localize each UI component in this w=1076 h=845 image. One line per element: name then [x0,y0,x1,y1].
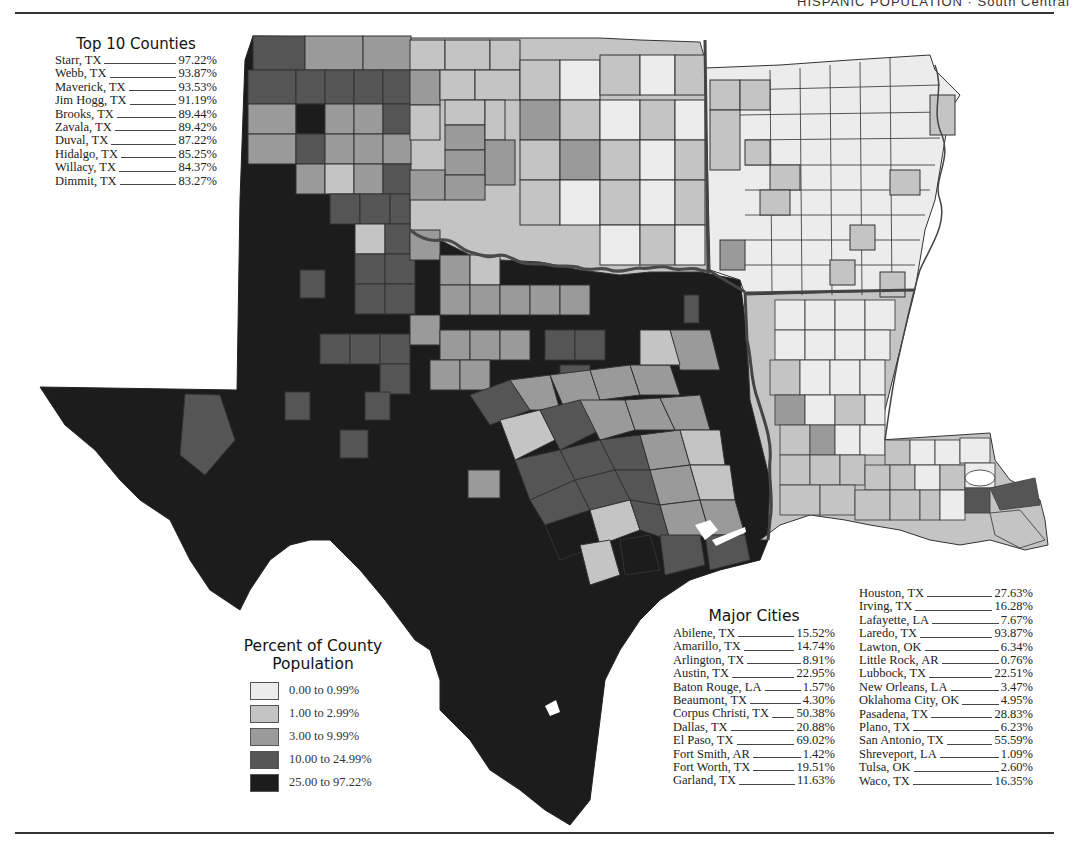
county-row: Hidalgo, TX85.25% [55,148,217,161]
county-row-name: Jim Hogg, TX [55,94,127,107]
county-row-name: Starr, TX [55,54,101,67]
legend-swatch [250,705,279,723]
city-row-name: Irving, TX [859,600,912,613]
legend-label: 10.00 to 24.99% [289,752,372,767]
city-row-value: 27.63% [994,587,1033,600]
leader-line [747,663,800,664]
city-row-value: 1.42% [803,748,835,761]
leader-line [915,610,992,611]
city-row-value: 1.09% [1001,748,1033,761]
leader-line [130,104,177,105]
leader-line [753,770,794,771]
city-row-value: 93.87% [994,627,1033,640]
county-row-value: 83.27% [178,175,217,188]
leader-line [750,703,801,704]
city-row-name: Pasadena, TX [859,708,928,721]
legend-item: 0.00 to 0.99% [250,679,388,702]
legend-swatch [250,728,279,746]
leader-line [738,636,794,637]
city-row: Lafayette, LA7.67% [859,614,1033,627]
legend-item: 25.00 to 97.22% [250,771,388,794]
leader-line [947,744,993,745]
city-row-name: Baton Rouge, LA [673,681,762,694]
city-row-name: Tulsa, OK [859,761,911,774]
county-row-name: Dimmit, TX [55,175,117,188]
city-row: San Antonio, TX55.59% [859,734,1033,747]
city-row-name: Abilene, TX [673,627,735,640]
leader-line [737,744,795,745]
legend-title-line2: Population [238,655,388,673]
legend-label: 0.00 to 0.99% [289,683,359,698]
city-row-name: Waco, TX [859,775,910,788]
city-row-value: 8.91% [803,654,835,667]
leader-line [120,184,177,185]
legend-item: 10.00 to 24.99% [250,748,388,771]
city-row-value: 55.59% [994,734,1033,747]
map-legend: Percent of County Population 0.00 to 0.9… [238,637,388,794]
city-row: Garland, TX11.63% [673,774,835,787]
city-row: El Paso, TX69.02% [673,734,835,747]
leader-line [732,677,794,678]
county-row: Jim Hogg, TX91.19% [55,94,217,107]
county-row-value: 85.25% [178,148,217,161]
leader-line [129,90,177,91]
leader-line [765,690,801,691]
leader-line [753,757,801,758]
city-row-name: Laredo, TX [859,627,917,640]
city-row-value: 3.47% [1001,681,1033,694]
city-row-name: Plano, TX [859,721,910,734]
city-row-value: 6.23% [1001,721,1033,734]
city-row-value: 16.28% [994,600,1033,613]
county-row-value: 93.87% [178,67,217,80]
city-row: Arlington, TX8.91% [673,654,835,667]
footer-rule [15,832,1054,834]
county-row-value: 87.22% [178,134,217,147]
city-row-name: Dallas, TX [673,721,728,734]
county-row: Dimmit, TX83.27% [55,175,217,188]
legend-label: 25.00 to 97.22% [289,775,372,790]
city-row: Dallas, TX20.88% [673,721,835,734]
leader-line [927,596,992,597]
city-row: Shreveport, LA1.09% [859,748,1033,761]
county-row-value: 93.53% [178,81,217,94]
leader-line [942,663,999,664]
city-row-name: Lafayette, LA [859,614,929,627]
city-row-name: Arlington, TX [673,654,744,667]
county-row: Brooks, TX89.44% [55,108,217,121]
city-row-value: 14.74% [796,640,835,653]
city-row-name: San Antonio, TX [859,734,944,747]
city-row: Fort Smith, AR1.42% [673,748,835,761]
leader-line [929,677,992,678]
leader-line [925,650,999,651]
city-row-value: 2.60% [1001,761,1033,774]
leader-line [117,117,177,118]
city-row-value: 15.52% [796,627,835,640]
county-row: Maverick, TX93.53% [55,81,217,94]
county-row-name: Brooks, TX [55,108,114,121]
city-row: Corpus Christi, TX50.38% [673,707,835,720]
city-row: Beaumont, TX4.30% [673,694,835,707]
city-row: Little Rock, AR0.76% [859,654,1033,667]
city-row-name: Shreveport, LA [859,748,937,761]
city-row-name: Lubbock, TX [859,667,926,680]
leader-line [962,704,998,705]
city-row: Houston, TX27.63% [859,587,1033,600]
city-row-name: Oklahoma City, OK [859,694,959,707]
county-row-value: 84.37% [178,161,217,174]
leader-line [772,717,794,718]
legend-label: 1.00 to 2.99% [289,706,359,721]
city-row: Austin, TX22.95% [673,667,835,680]
city-row-name: New Orleans, LA [859,681,948,694]
city-row-value: 28.83% [994,708,1033,721]
leader-line [913,784,993,785]
leader-line [940,757,999,758]
city-row: Laredo, TX93.87% [859,627,1033,640]
city-row: Waco, TX16.35% [859,775,1033,788]
legend-swatch [250,682,279,700]
city-row: Oklahoma City, OK4.95% [859,694,1033,707]
city-row-value: 50.38% [796,707,835,720]
city-row-value: 4.30% [803,694,835,707]
major-cities-panel: Major Cities Abilene, TX15.52%Amarillo, … [673,606,835,788]
city-row-name: Houston, TX [859,587,924,600]
city-row: Irving, TX16.28% [859,600,1033,613]
